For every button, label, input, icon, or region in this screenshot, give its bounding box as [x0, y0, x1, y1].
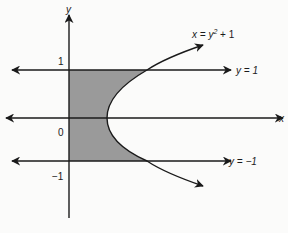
tick-label-neg1: −1	[52, 171, 64, 182]
y-axis-label: y	[65, 4, 72, 15]
parabola-curve	[107, 45, 203, 186]
graph: y x 1 0 −1 x = y2 + 1 y = 1 y = −1	[0, 0, 288, 233]
line-bottom-label: y = −1	[228, 156, 257, 167]
line-top-label: y = 1	[235, 65, 258, 76]
tick-label-1: 1	[58, 56, 64, 67]
tick-label-0: 0	[58, 127, 64, 138]
x-axis-label: x	[278, 113, 285, 124]
parabola-label: x = y2 + 1	[191, 28, 235, 40]
shaded-region	[69, 70, 147, 161]
